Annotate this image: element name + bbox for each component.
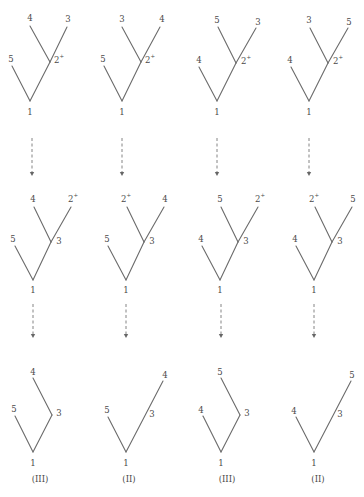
node-label: 5	[214, 15, 219, 25]
node-label: 3	[255, 17, 260, 27]
node-label: 3	[56, 236, 61, 246]
tree-edge	[122, 27, 141, 62]
tree-edge	[221, 207, 238, 242]
node-label: 3	[337, 236, 342, 246]
tree-edge	[296, 417, 314, 452]
node-label: 2+	[54, 53, 64, 64]
tree-edge	[221, 378, 240, 415]
node-label: 2+	[255, 192, 265, 203]
row-middle-tree-2-labels: 1352+4	[104, 192, 167, 294]
dashed-down-arrow-icon	[120, 138, 124, 176]
node-label: 4	[30, 367, 35, 377]
tree-edge	[12, 66, 30, 101]
node-label: 1	[123, 458, 128, 468]
node-label: 5	[217, 194, 222, 204]
node-label: 2+	[241, 54, 251, 65]
row-top-tree-4	[291, 28, 348, 101]
node-label: 2+	[68, 192, 78, 203]
row-bottom-tree-1	[15, 378, 52, 452]
node-label: 1	[30, 285, 35, 295]
tree-edge	[202, 246, 220, 280]
node-label: 3	[65, 14, 70, 24]
row-bottom-tree-1-labels: 1354	[11, 367, 61, 468]
node-label: 5	[217, 367, 222, 377]
tree-edge	[314, 381, 351, 452]
row-bottom-tree-2-labels: 1543	[104, 370, 167, 468]
row-bottom-tree-3-labels: 1345	[198, 367, 249, 468]
row-middle-tree-4-labels: 1342+5	[292, 192, 355, 294]
arrows-layer	[30, 138, 316, 338]
dashed-down-arrow-icon	[312, 304, 316, 338]
node-label: 5	[11, 404, 16, 414]
node-label: 4	[162, 194, 167, 204]
dashed-down-arrow-icon	[30, 138, 34, 176]
node-label: 5	[349, 370, 354, 380]
captions-layer: (III)(II)(III)(II)	[32, 474, 325, 484]
labels-layer: 12+54312+53412+45312+43513542+1352+41345…	[8, 13, 355, 468]
tree-edge	[108, 246, 126, 280]
node-label: 5	[10, 234, 15, 244]
tree-edge	[127, 207, 144, 242]
row-bottom-tree-4	[296, 381, 351, 452]
node-label: 1	[123, 285, 128, 295]
tree-edge	[217, 63, 236, 101]
node-label: 5	[346, 17, 351, 27]
node-label: 4	[198, 405, 203, 415]
node-label: 3	[119, 14, 124, 24]
tree-caption: (II)	[311, 474, 324, 484]
tree-edge	[315, 207, 332, 242]
node-label: 4	[198, 234, 203, 244]
node-label: 1	[30, 458, 35, 468]
node-label: 3	[149, 409, 154, 419]
tree-edge	[122, 62, 141, 101]
node-label: 5	[8, 54, 13, 64]
node-label: 1	[218, 458, 223, 468]
node-label: 5	[100, 54, 105, 64]
tree-edge	[126, 242, 144, 280]
row-middle-tree-2	[108, 207, 164, 280]
row-top-tree-2-labels: 12+534	[100, 14, 164, 117]
node-label: 1	[119, 107, 124, 117]
row-middle-tree-3-labels: 13452+	[198, 192, 265, 294]
node-label: 3	[149, 236, 154, 246]
node-label: 1	[311, 458, 316, 468]
tree-edge	[203, 416, 221, 452]
dashed-down-arrow-icon	[124, 304, 128, 338]
tree-edge	[126, 381, 163, 452]
dashed-down-arrow-icon	[215, 138, 219, 176]
dashed-down-arrow-icon	[307, 138, 311, 176]
dashed-down-arrow-icon	[31, 304, 35, 338]
node-label: 3	[306, 15, 311, 25]
tree-edge	[314, 242, 332, 280]
node-label: 4	[162, 370, 167, 380]
tree-edge	[33, 415, 52, 452]
tree-edge	[218, 27, 236, 63]
node-label: 2+	[145, 53, 155, 64]
node-label: 1	[311, 285, 316, 295]
node-label: 4	[292, 234, 297, 244]
tree-edge	[33, 378, 52, 415]
dashed-down-arrow-icon	[219, 304, 223, 338]
node-label: 5	[350, 194, 355, 204]
edges-layer	[12, 26, 352, 452]
row-top-tree-2	[104, 27, 160, 101]
node-label: 3	[243, 236, 248, 246]
tree-edge	[199, 67, 217, 101]
tree-caption: (III)	[32, 474, 49, 484]
row-bottom-tree-4-labels: 1453	[291, 370, 354, 468]
tree-edge	[309, 63, 328, 101]
row-middle-tree-3	[202, 207, 258, 280]
node-label: 1	[217, 285, 222, 295]
tree-caption: (III)	[219, 474, 236, 484]
node-label: 3	[56, 408, 61, 418]
node-label: 3	[244, 408, 249, 418]
row-bottom-tree-2	[108, 381, 163, 452]
tree-edge	[220, 242, 238, 280]
row-top-tree-4-labels: 12+435	[287, 15, 351, 117]
node-label: 2+	[309, 192, 319, 203]
node-label: 1	[306, 107, 311, 117]
tree-edge	[108, 417, 126, 452]
row-top-tree-3-labels: 12+453	[196, 15, 260, 117]
tree-edge	[296, 246, 314, 280]
tree-edge	[291, 67, 309, 101]
